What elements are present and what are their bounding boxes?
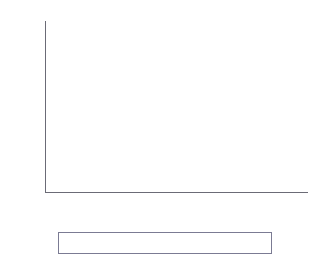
- y-axis-tick-labels: [16, 0, 42, 266]
- plot-area: [45, 21, 308, 193]
- bar-group: [46, 21, 308, 192]
- stacked-bar-chart: [0, 0, 317, 266]
- chart-legend: [58, 232, 272, 254]
- x-axis-tick-labels: [45, 195, 307, 209]
